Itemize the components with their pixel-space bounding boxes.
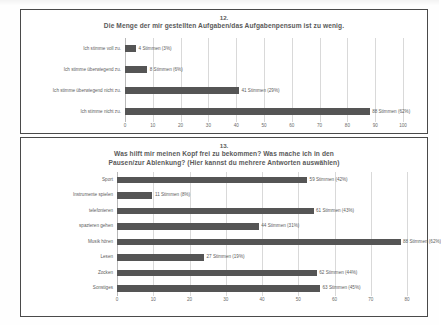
bar (117, 285, 320, 292)
bar (117, 177, 307, 184)
bar-value-label: 63 Stimmen (45%) (320, 285, 361, 291)
x-tick-60: 60 (289, 122, 294, 130)
category-label: Ich stimme überwiegend zu. (21, 67, 125, 73)
bar-and-value: 4 Stimmen (3%) (125, 45, 172, 52)
bar-and-value: 8 Stimmen (6%) (125, 66, 183, 73)
bar-value-label: 44 Stimmen (31%) (259, 223, 300, 229)
x-tick-20: 20 (178, 122, 183, 130)
x-tick-40: 40 (259, 296, 264, 304)
bar-and-value: 41 Stimmen (29%) (125, 87, 280, 94)
bar-and-value: 27 Stimmen (19%) (117, 254, 245, 261)
chart-13-title-line-1: Was hilft mir meinen Kopf frei zu bekomm… (21, 150, 427, 159)
x-tick-0: 0 (116, 296, 119, 304)
bar-value-label: 8 Stimmen (6%) (147, 67, 182, 73)
x-axis-labels: 01020304050607080 (117, 296, 407, 306)
category-label: Zocken (21, 270, 117, 276)
bar-row: spazieren gehen44 Stimmen (31%) (21, 219, 427, 235)
bar-value-label: 88 Stimmen (62%) (401, 239, 441, 245)
bar-row: telefonieren61 Stimmen (43%) (21, 203, 427, 219)
x-tick-40: 40 (234, 122, 239, 130)
x-tick-90: 90 (373, 122, 378, 130)
category-label: telefonieren (21, 208, 117, 214)
bar-and-value: 11 Stimmen (8%) (117, 192, 190, 199)
chart-13-title-line-2: Pausen/zur Ablenkung? (Hier kannst du me… (21, 159, 427, 168)
x-tick-70: 70 (317, 122, 322, 130)
bar-and-value: 62 Stimmen (44%) (117, 270, 357, 277)
bar-row: Musik hören88 Stimmen (62%) (21, 234, 427, 250)
bar-value-label: 62 Stimmen (44%) (317, 270, 358, 276)
bar (117, 208, 314, 215)
category-label: Ich stimme überwiegend nicht zu. (21, 88, 125, 94)
chart-12-container: 12. Die Menge der mir gestellten Aufgabe… (20, 9, 428, 134)
bar (117, 239, 401, 246)
scan-artifact (0, 0, 439, 6)
chart-13-container: 13. Was hilft mir meinen Kopf frei zu be… (20, 137, 428, 317)
x-tick-0: 0 (124, 122, 127, 130)
category-label: Sport (21, 177, 117, 183)
x-tick-20: 20 (187, 296, 192, 304)
x-tick-30: 30 (206, 122, 211, 130)
bar (117, 192, 152, 199)
category-label: Musik hören (21, 239, 117, 245)
bar-value-label: 88 Stimmen (62%) (370, 109, 411, 115)
x-tick-80: 80 (345, 122, 350, 130)
category-label: Ich stimme voll zu. (21, 46, 125, 52)
x-tick-100: 100 (399, 122, 407, 130)
bar-row: Sonstiges63 Stimmen (45%) (21, 281, 427, 297)
x-tick-60: 60 (332, 296, 337, 304)
bar-value-label: 61 Stimmen (43%) (314, 208, 355, 214)
bar-row: Sport59 Stimmen (42%) (21, 172, 427, 188)
bar (117, 223, 259, 230)
bar-row: Ich stimme überwiegend nicht zu.41 Stimm… (21, 80, 427, 101)
category-label: Lesen (21, 254, 117, 260)
bar (125, 45, 136, 52)
bar-row: Ich stimme nicht zu.88 Stimmen (62%) (21, 101, 427, 122)
bar (117, 254, 204, 261)
bar-and-value: 59 Stimmen (42%) (117, 177, 348, 184)
category-label: Ich stimme nicht zu. (21, 109, 125, 115)
bar-and-value: 61 Stimmen (43%) (117, 208, 354, 215)
bar (117, 270, 317, 277)
x-tick-10: 10 (151, 296, 156, 304)
bar (125, 87, 239, 94)
bar-row: Zocken62 Stimmen (44%) (21, 265, 427, 281)
x-tick-70: 70 (368, 296, 373, 304)
bar-value-label: 27 Stimmen (19%) (204, 254, 245, 260)
chart-12-plot: Ich stimme voll zu.4 Stimmen (3%)Ich sti… (21, 38, 427, 132)
bar-row: Instrumente spielen11 Stimmen (8%) (21, 188, 427, 204)
x-tick-10: 10 (150, 122, 155, 130)
category-label: Instrumente spielen (21, 192, 117, 198)
bar-row: Ich stimme voll zu.4 Stimmen (3%) (21, 38, 427, 59)
x-tick-50: 50 (296, 296, 301, 304)
category-label: spazieren gehen (21, 223, 117, 229)
bar (125, 108, 370, 115)
x-axis-labels: 0102030405060708090100 (125, 122, 403, 132)
bar-value-label: 11 Stimmen (8%) (152, 192, 190, 198)
bar-and-value: 88 Stimmen (62%) (117, 239, 441, 246)
x-tick-50: 50 (261, 122, 266, 130)
bar-and-value: 88 Stimmen (62%) (125, 108, 410, 115)
chart-12-title: Die Menge der mir gestellten Aufgaben/da… (21, 22, 427, 31)
chart-13-plot: Sport59 Stimmen (42%)Instrumente spielen… (21, 172, 427, 306)
bar-value-label: 59 Stimmen (42%) (307, 177, 348, 183)
bar-value-label: 4 Stimmen (3%) (136, 46, 171, 52)
bar-value-label: 41 Stimmen (29%) (239, 88, 280, 94)
x-tick-30: 30 (223, 296, 228, 304)
bar-and-value: 63 Stimmen (45%) (117, 285, 361, 292)
x-tick-80: 80 (404, 296, 409, 304)
chart-12-number: 12. (21, 10, 427, 22)
bar (125, 66, 147, 73)
bar-and-value: 44 Stimmen (31%) (117, 223, 299, 230)
chart-13-number: 13. (21, 138, 427, 150)
bar-row: Ich stimme überwiegend zu.8 Stimmen (6%) (21, 59, 427, 80)
category-label: Sonstiges (21, 285, 117, 291)
bar-row: Lesen27 Stimmen (19%) (21, 250, 427, 266)
